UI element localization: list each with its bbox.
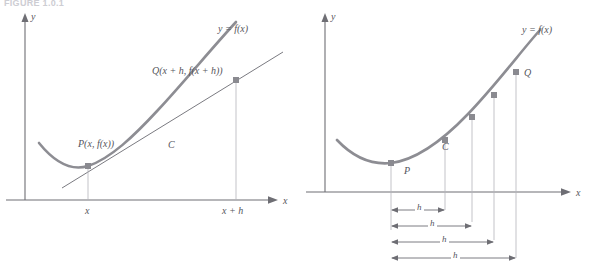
y-axis-label: y [331, 12, 335, 22]
point-marker-q [513, 69, 519, 75]
function-curve [39, 22, 236, 168]
point-q-label: Q(x + h, f(x + h)) [152, 66, 223, 76]
point-marker-p [85, 163, 91, 169]
curve-label: C [168, 140, 175, 150]
x-axis [306, 188, 571, 196]
point-marker-p [388, 160, 394, 166]
point-q-label: Q [524, 68, 531, 78]
interval-label-h-4: h [451, 251, 460, 260]
function-curve [337, 30, 540, 163]
function-label: y = f(x) [522, 25, 552, 35]
y-axis [22, 13, 29, 200]
limiting-secants-panel: y x y = f(x) C P Q h h h h [300, 0, 599, 273]
tick-label-x: x [85, 206, 89, 216]
point-marker-q [233, 77, 239, 83]
point-marker-s3 [491, 92, 497, 98]
x-axis [6, 196, 278, 204]
y-axis-label: y [31, 12, 35, 22]
point-marker-s2 [469, 114, 475, 120]
secant-line-graphic [0, 0, 299, 273]
function-label: y = f(x) [218, 24, 248, 34]
x-axis-label: x [283, 196, 287, 206]
curve-label: C [442, 142, 449, 152]
point-p-label: P [404, 166, 410, 176]
interval-label-h-1: h [415, 203, 424, 212]
limiting-secants-graphic [300, 0, 599, 273]
figure-root: FIGURE 1.0.1 y [0, 0, 599, 273]
x-axis-label: x [576, 188, 580, 198]
point-p-label: P(x, f(x)) [78, 139, 114, 149]
interval-label-h-3: h [440, 235, 449, 244]
y-axis [322, 13, 329, 192]
tick-label-x-plus-h: x + h [222, 206, 243, 216]
interval-label-h-2: h [428, 219, 437, 228]
secant-line-panel: y x y = f(x) C P(x, f(x)) Q(x + h, f(x +… [0, 0, 299, 273]
